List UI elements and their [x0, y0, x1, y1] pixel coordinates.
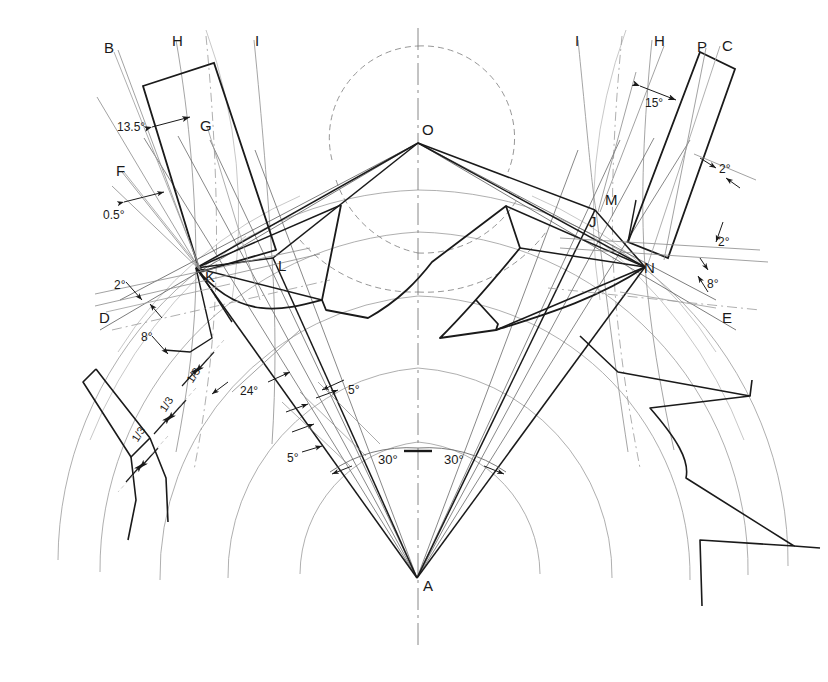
angle-label-13-5: 13.5° [117, 121, 145, 133]
dim-right-8-ref [548, 288, 760, 310]
right-label-leaders [620, 46, 720, 308]
point-label-G: G [200, 118, 212, 133]
dim-8-left-arrow [152, 336, 168, 354]
centre-left-tooth-profile [322, 205, 520, 338]
dim-24 [232, 330, 300, 392]
dim-15 [598, 46, 664, 212]
angle-label-24: 24° [240, 385, 258, 397]
dim-24-arrow-l [212, 382, 228, 394]
point-label-D: D [99, 310, 110, 325]
point-label-H-right: H [654, 33, 665, 48]
angle-label-8-right: 8° [707, 278, 718, 290]
point-label-I-left: I [255, 33, 259, 48]
point-label-B: B [104, 40, 114, 55]
dim-13_5 [97, 50, 200, 270]
angle-label-0-5: 0.5° [103, 209, 124, 221]
arm-lines [196, 143, 645, 578]
right-outer-tooth [580, 336, 820, 606]
technical-drawing-page: B H I G F D K L O A I H P C M J N E 13.5… [0, 0, 828, 682]
dim-5-upper-arrow [322, 380, 344, 390]
angle-label-2-topright: 2° [719, 163, 730, 175]
angle-label-2-left: 2° [114, 279, 125, 291]
right-tooth-block-inner [628, 200, 636, 242]
angle-label-30-left: 30° [378, 453, 398, 466]
dim-8-right-arrow2 [700, 258, 708, 270]
angle-label-2-right: 2° [718, 236, 729, 248]
point-label-P: P [697, 39, 707, 54]
left-tooth-block [143, 63, 276, 272]
dim-0_5 [112, 172, 200, 270]
point-label-N: N [644, 260, 655, 275]
pitch-arcs-dashed [300, 46, 546, 292]
dim-5-lower-arrow [302, 446, 322, 452]
dim-2-topright-arrow-b [726, 178, 740, 188]
point-label-L: L [278, 258, 287, 273]
point-label-I-right: I [575, 33, 579, 48]
angle-label-5-lower: 5° [287, 452, 298, 464]
drawing-canvas [0, 0, 828, 682]
point-label-A: A [423, 578, 433, 593]
point-label-E: E [722, 310, 732, 325]
point-label-M: M [605, 192, 618, 207]
point-label-J: J [589, 214, 597, 229]
point-label-C: C [722, 38, 733, 53]
angle-label-15: 15° [645, 97, 663, 109]
angle-label-8-left: 8° [141, 331, 152, 343]
dim-13_5-arrow [152, 117, 190, 127]
angle-label-30-right: 30° [444, 453, 464, 466]
left-outer-tooth [83, 369, 168, 540]
point-label-K: K [205, 269, 215, 284]
point-label-F: F [116, 163, 125, 178]
point-label-O: O [422, 122, 434, 137]
angle-label-5-upper: 5° [348, 384, 359, 396]
point-label-H-left: H [172, 33, 183, 48]
